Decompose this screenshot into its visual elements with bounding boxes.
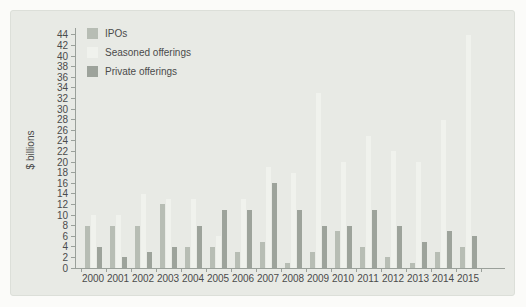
- bar-ipos-2005: [210, 247, 215, 268]
- y-tick-label: 8: [38, 220, 68, 231]
- x-tick-mark: [481, 269, 482, 272]
- x-tick-mark: [356, 269, 357, 272]
- x-tick-mark: [181, 269, 182, 272]
- x-tick-mark: [281, 269, 282, 272]
- y-tick-label: 24: [38, 135, 68, 146]
- y-tick-mark: [71, 87, 75, 88]
- y-tick-label: 22: [38, 146, 68, 157]
- chart: $ billions IPOs Seasoned offerings Priva…: [0, 0, 526, 307]
- y-tick-label: 2: [38, 252, 68, 263]
- bar-seasoned-offerings-2001: [116, 215, 121, 268]
- y-tick-label: 16: [38, 178, 68, 189]
- legend-item-ipos: IPOs: [87, 24, 191, 43]
- bar-seasoned-offerings-2015: [466, 35, 471, 268]
- y-axis-line: [75, 28, 76, 269]
- bar-private-offerings-2009: [322, 226, 327, 268]
- y-tick-mark: [71, 56, 75, 57]
- x-tick-mark: [456, 269, 457, 272]
- y-tick-label: 38: [38, 61, 68, 72]
- bar-seasoned-offerings-2008: [291, 173, 296, 268]
- y-tick-label: 32: [38, 93, 68, 104]
- bar-private-offerings-2010: [347, 226, 352, 268]
- bar-private-offerings-2013: [422, 242, 427, 269]
- y-tick-mark: [71, 66, 75, 67]
- y-tick-label: 26: [38, 125, 68, 136]
- y-tick-label: 4: [38, 241, 68, 252]
- y-tick-label: 12: [38, 199, 68, 210]
- y-tick-mark: [71, 162, 75, 163]
- bar-private-offerings-2001: [122, 257, 127, 268]
- x-tick-mark: [156, 269, 157, 272]
- bar-seasoned-offerings-2000: [91, 215, 96, 268]
- bar-ipos-2006: [235, 252, 240, 268]
- bar-ipos-2004: [185, 247, 190, 268]
- bar-ipos-2007: [260, 242, 265, 269]
- legend-label-private-offerings: Private offerings: [105, 66, 177, 77]
- y-tick-mark: [71, 193, 75, 194]
- bar-ipos-2015: [460, 247, 465, 268]
- y-tick-mark: [71, 183, 75, 184]
- bar-private-offerings-2008: [297, 210, 302, 268]
- bar-ipos-2009: [310, 252, 315, 268]
- x-tick-mark: [406, 269, 407, 272]
- bar-ipos-2002: [135, 226, 140, 268]
- bar-seasoned-offerings-2010: [341, 162, 346, 268]
- x-tick-mark: [131, 269, 132, 272]
- y-tick-mark: [71, 140, 75, 141]
- x-tick-mark: [81, 269, 82, 272]
- bar-private-offerings-2012: [397, 226, 402, 268]
- x-tick-mark: [231, 269, 232, 272]
- y-tick-mark: [71, 98, 75, 99]
- y-tick-mark: [71, 215, 75, 216]
- bar-private-offerings-2003: [172, 247, 177, 268]
- y-tick-label: 18: [38, 167, 68, 178]
- y-tick-label: 0: [38, 263, 68, 274]
- y-tick-label: 42: [38, 40, 68, 51]
- y-tick-mark: [71, 119, 75, 120]
- y-tick-label: 34: [38, 82, 68, 93]
- plot-area: $ billions IPOs Seasoned offerings Priva…: [0, 0, 526, 307]
- bar-seasoned-offerings-2007: [266, 167, 271, 268]
- y-tick-mark: [71, 77, 75, 78]
- bar-seasoned-offerings-2014: [441, 120, 446, 268]
- bar-ipos-2014: [435, 252, 440, 268]
- y-axis-title-text: $ billions: [25, 131, 36, 170]
- y-tick-label: 10: [38, 210, 68, 221]
- y-tick-mark: [71, 130, 75, 131]
- bar-seasoned-offerings-2002: [141, 194, 146, 268]
- y-tick-label: 30: [38, 104, 68, 115]
- x-tick-mark: [206, 269, 207, 272]
- bar-private-offerings-2005: [222, 210, 227, 268]
- bar-ipos-2008: [285, 263, 290, 268]
- bar-ipos-2001: [110, 226, 115, 268]
- legend-item-seasoned-offerings: Seasoned offerings: [87, 43, 191, 62]
- bar-seasoned-offerings-2004: [191, 199, 196, 268]
- y-tick-label: 44: [38, 29, 68, 40]
- bar-seasoned-offerings-2003: [166, 199, 171, 268]
- y-tick-mark: [71, 45, 75, 46]
- legend-swatch-seasoned-offerings: [87, 47, 98, 58]
- bar-seasoned-offerings-2009: [316, 93, 321, 268]
- legend-swatch-private-offerings: [87, 66, 98, 77]
- x-axis-line: [75, 268, 505, 269]
- bar-seasoned-offerings-2011: [366, 136, 371, 269]
- y-tick-mark: [71, 225, 75, 226]
- bar-seasoned-offerings-2012: [391, 151, 396, 268]
- bar-private-offerings-2000: [97, 247, 102, 268]
- bar-ipos-2010: [335, 231, 340, 268]
- x-tick-mark: [106, 269, 107, 272]
- legend-label-seasoned-offerings: Seasoned offerings: [105, 47, 191, 58]
- y-tick-label: 40: [38, 51, 68, 62]
- y-tick-mark: [71, 236, 75, 237]
- y-tick-mark: [71, 109, 75, 110]
- x-tick-mark: [381, 269, 382, 272]
- y-tick-label: 28: [38, 114, 68, 125]
- bar-ipos-2003: [160, 204, 165, 268]
- bar-ipos-2012: [385, 257, 390, 268]
- bar-private-offerings-2006: [247, 210, 252, 268]
- x-tick-mark: [256, 269, 257, 272]
- bar-seasoned-offerings-2005: [216, 236, 221, 268]
- x-axis-label-2015: 2015: [452, 273, 484, 284]
- bar-private-offerings-2015: [472, 236, 477, 268]
- y-tick-label: 36: [38, 72, 68, 83]
